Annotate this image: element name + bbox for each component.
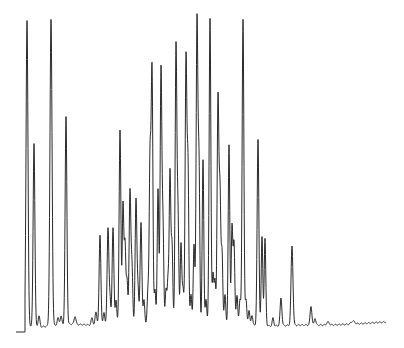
chromatogram-chart (0, 0, 404, 348)
